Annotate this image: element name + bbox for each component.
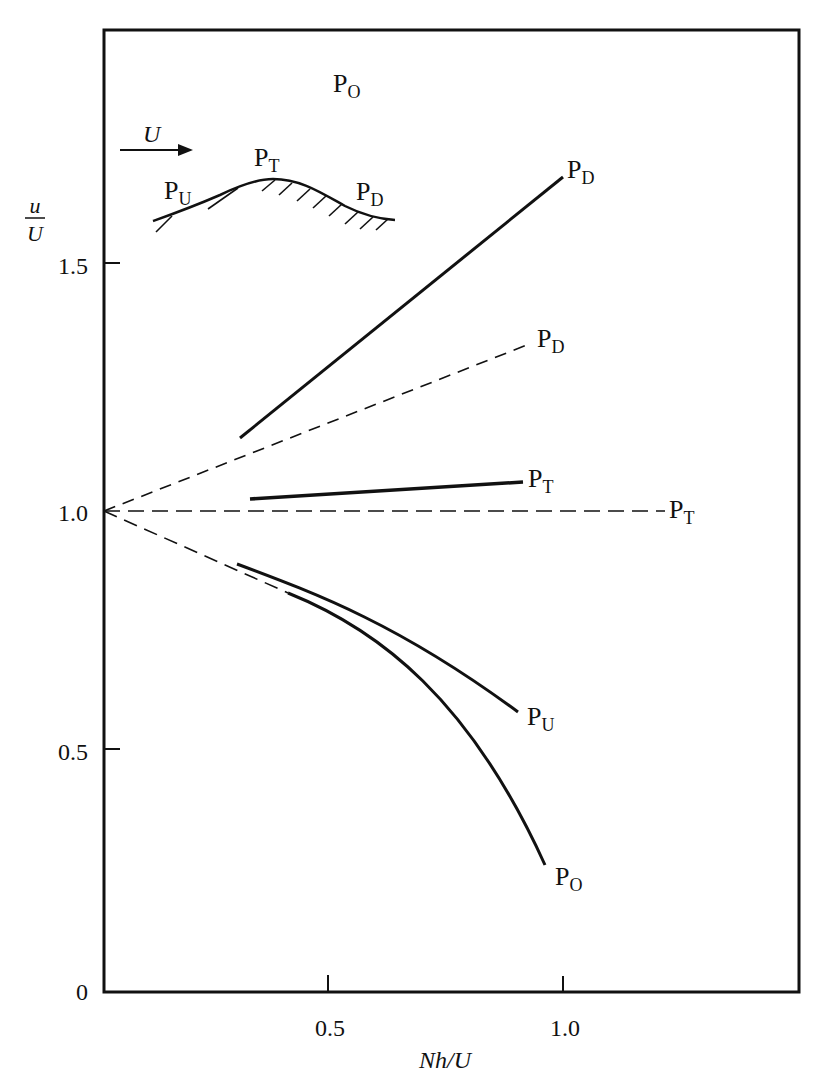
chart-canvas: 1.5 1.0 0.5 0 0.5 1.0 Nh/U u U PO U PT P… (0, 0, 828, 1077)
label-pd-solid: PD (567, 155, 594, 188)
inset-pd-label: PD (356, 177, 383, 210)
curve-pt-solid (250, 482, 523, 499)
y-axis-label: u U (25, 193, 45, 246)
data-curves (104, 177, 665, 865)
inset-po-label: PO (333, 69, 360, 102)
curve-po-solid (288, 593, 545, 865)
arrowhead-icon (178, 144, 193, 156)
y-axis-label-denominator: U (27, 221, 45, 246)
y-tick-1.0: 1.0 (58, 500, 88, 526)
label-po-solid: PO (555, 862, 582, 895)
flow-label-u: U (143, 121, 162, 147)
label-pu-solid: PU (527, 702, 554, 735)
y-axis-ticks (104, 263, 120, 749)
inset-pt-label: PT (254, 143, 279, 176)
x-axis-ticks (328, 975, 563, 992)
x-tick-0.5: 0.5 (315, 1015, 345, 1041)
x-tick-1.0: 1.0 (550, 1015, 580, 1041)
label-pt-solid: PT (528, 464, 553, 497)
inset-hill-diagram: PO U PT PU PD (120, 69, 395, 232)
label-pd-dashed: PD (537, 324, 564, 357)
y-axis-label-numerator: u (30, 193, 41, 218)
y-tick-0: 0 (76, 979, 88, 1005)
curve-lower-dashed (104, 511, 288, 593)
curve-pu-solid (237, 564, 518, 712)
y-tick-0.5: 0.5 (58, 739, 88, 765)
label-pt-dashed: PT (669, 495, 694, 528)
curve-pd-solid (240, 177, 563, 438)
y-tick-1.5: 1.5 (58, 253, 88, 279)
x-axis-label: Nh/U (418, 1047, 473, 1073)
inset-pu-label: PU (164, 176, 191, 209)
